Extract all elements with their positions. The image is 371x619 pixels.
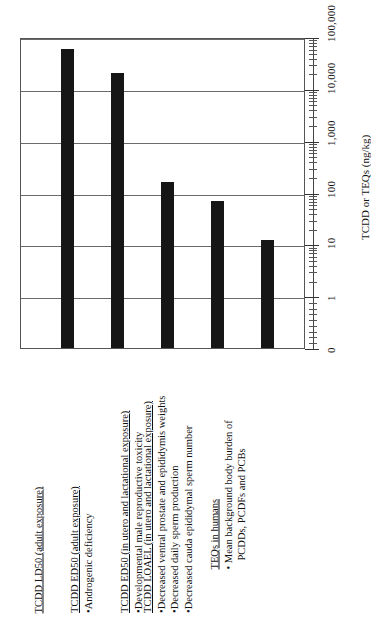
- tick-minor: [309, 309, 317, 310]
- tick-label-10000: 10,000: [325, 62, 337, 93]
- tick-minor: [309, 105, 317, 106]
- tick-minor: [309, 248, 317, 249]
- tick-minor: [309, 50, 317, 51]
- bar-tcdd-ed50-adult: [111, 73, 124, 348]
- tick-major-100: [305, 194, 319, 195]
- tick-minor: [309, 169, 317, 170]
- tick-minor: [309, 320, 317, 321]
- tick-minor: [309, 74, 317, 75]
- tick-major-1: [305, 297, 319, 298]
- tick-minor: [309, 343, 317, 344]
- category-label-teqs-in-humans: TEQs in humans• Mean background body bur…: [208, 420, 249, 569]
- tick-minor: [309, 214, 317, 215]
- bar-teqs-in-humans: [261, 240, 274, 348]
- tick-minor: [309, 54, 317, 55]
- tick-minor: [309, 326, 317, 327]
- category-heading: TCDD ED50 (in utero and lactational expo…: [118, 411, 132, 613]
- tick-minor: [309, 196, 317, 197]
- category-bullet: PCDDs, PCDFs and PCBs: [235, 420, 249, 569]
- tick-minor: [309, 153, 317, 154]
- tick-minor: [309, 65, 317, 66]
- category-label-tcdd-ld50-adult: TCDD LD50 (adult exposure): [32, 486, 46, 613]
- category-bullet: •Androgenic deficiency: [82, 486, 96, 613]
- category-heading: TCDD LD50 (adult exposure): [32, 486, 46, 613]
- category-bullet: •Decreased cauda epididymal sperm number: [182, 396, 196, 613]
- tick-minor: [309, 150, 317, 151]
- tick-minor: [309, 117, 317, 118]
- tick-label-1: 1: [325, 295, 337, 301]
- tick-minor: [309, 202, 317, 203]
- tick-minor: [309, 266, 317, 267]
- tick-minor: [309, 257, 317, 258]
- tick-minor: [309, 332, 317, 333]
- tick-minor: [309, 221, 317, 222]
- category-labels: TCDD LD50 (adult exposure)TCDD ED50 (adu…: [0, 352, 371, 619]
- gridline-100000: [21, 39, 304, 40]
- tick-minor: [309, 230, 317, 231]
- tick-minor: [309, 92, 317, 93]
- tick-minor: [309, 282, 317, 283]
- tick-minor: [309, 261, 317, 262]
- tick-minor: [309, 59, 317, 60]
- tick-minor: [309, 303, 317, 304]
- tick-minor: [309, 98, 317, 99]
- tick-minor: [309, 314, 317, 315]
- chart-plot-area: [20, 38, 305, 349]
- tick-minor: [309, 253, 317, 254]
- tick-label-10: 10: [325, 238, 337, 249]
- tick-minor: [309, 162, 317, 163]
- bar-tcdd-loael-utero: [211, 201, 224, 348]
- tick-minor: [309, 40, 317, 41]
- tick-major-10: [305, 245, 319, 246]
- category-bullet: • Mean background body burden of: [221, 420, 235, 569]
- tick-minor: [309, 144, 317, 145]
- tick-minor: [309, 178, 317, 179]
- value-axis: 01101001,00010,000100,000: [305, 38, 319, 349]
- tick-major-100000: [305, 38, 319, 39]
- tick-minor: [309, 46, 317, 47]
- category-label-tcdd-loael-utero: TCDD LOAEL (in utero and lactational exp…: [141, 396, 195, 613]
- tick-major-10000: [305, 90, 319, 91]
- tick-minor: [309, 250, 317, 251]
- category-heading: TCDD ED50 (adult exposure): [68, 486, 82, 613]
- tick-minor: [309, 337, 317, 338]
- category-bullet: •Decreased ventral prostate and epididym…: [155, 396, 169, 613]
- tick-minor: [309, 199, 317, 200]
- tick-minor: [309, 209, 317, 210]
- tick-minor: [309, 205, 317, 206]
- tick-minor: [309, 110, 317, 111]
- tick-major-1000: [305, 142, 319, 143]
- tick-label-1000: 1,000: [325, 120, 337, 146]
- tick-minor: [309, 101, 317, 102]
- tick-minor: [309, 272, 317, 273]
- axis-title: TCDD or TEQs (ng/kg): [359, 135, 371, 240]
- tick-label-100000: 100,000: [325, 5, 337, 42]
- bar-tcdd-ld50-adult: [61, 49, 74, 348]
- category-label-tcdd-ed50-adult: TCDD ED50 (adult exposure)•Androgenic de…: [68, 486, 95, 613]
- tick-minor: [309, 147, 317, 148]
- category-heading: TEQs in humans: [208, 420, 222, 569]
- tick-minor: [309, 126, 317, 127]
- tick-minor: [309, 43, 317, 44]
- bar-tcdd-ed50-utero: [161, 182, 174, 348]
- tick-minor: [309, 95, 317, 96]
- tick-label-100: 100: [325, 180, 337, 197]
- tick-major-0: [305, 349, 319, 350]
- category-heading: TCDD LOAEL (in utero and lactational exp…: [141, 396, 155, 613]
- category-bullet: •Decreased daily sperm production: [168, 396, 182, 613]
- tick-minor: [309, 157, 317, 158]
